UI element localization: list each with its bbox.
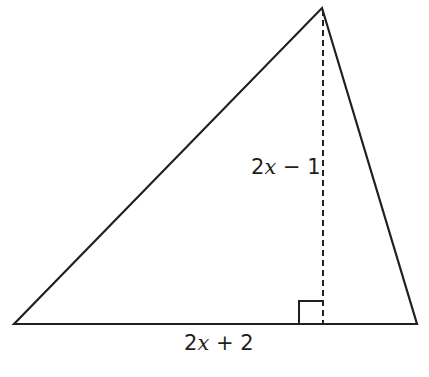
height-label: 2x − 1: [251, 157, 321, 178]
triangle-outline: [14, 8, 417, 324]
height-variable: x: [264, 155, 276, 179]
base-rest: + 2: [209, 331, 253, 355]
height-rest: − 1: [276, 155, 320, 179]
base-label: 2x + 2: [184, 333, 254, 354]
triangle-diagram: 2x − 1 2x + 2: [0, 0, 429, 377]
base-variable: x: [197, 331, 209, 355]
height-coef: 2: [251, 155, 264, 179]
right-angle-marker: [299, 301, 323, 324]
triangle-figure: [0, 0, 429, 377]
base-coef: 2: [184, 331, 197, 355]
